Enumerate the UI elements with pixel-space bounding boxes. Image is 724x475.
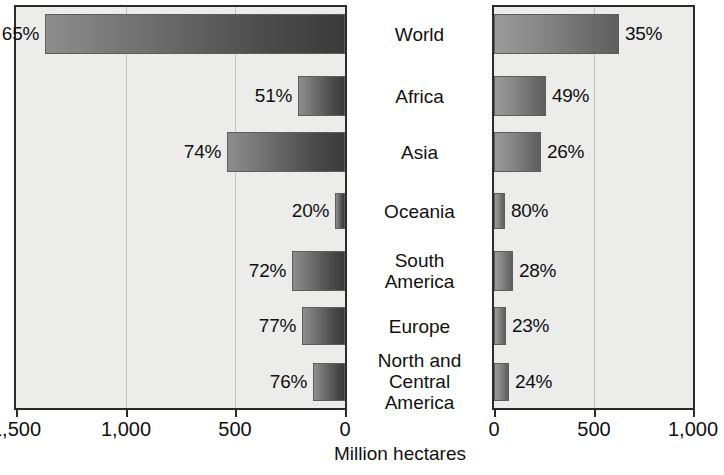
category-label-5: Europe <box>347 316 492 337</box>
left-chart-panel: 65%51%74%20%72%77%76% <box>14 5 347 410</box>
category-label-column: WorldAfricaAsiaOceaniaSouth AmericaEurop… <box>347 5 492 410</box>
value-label-right-0: 35% <box>625 24 662 43</box>
bar-left-4[interactable] <box>292 251 345 291</box>
bar-left-6[interactable] <box>313 363 345 401</box>
tick-label-left-1: 1,000 <box>101 419 151 439</box>
left-plot-area: 65%51%74%20%72%77%76% <box>16 7 345 408</box>
tick-mark <box>693 410 695 417</box>
tick-label-right-1: 500 <box>577 419 610 439</box>
gridline <box>594 7 595 408</box>
tick-mark <box>345 410 347 417</box>
value-label-left-6: 76% <box>270 372 307 391</box>
bar-right-1[interactable] <box>494 76 546 116</box>
category-label-4: South America <box>347 250 492 292</box>
tick-label-right-0: 0 <box>488 419 499 439</box>
value-label-left-3: 20% <box>292 201 329 220</box>
category-label-1: Africa <box>347 86 492 107</box>
category-label-6: North and Central America <box>347 350 492 413</box>
bar-left-5[interactable] <box>302 307 345 345</box>
gridline <box>126 7 127 408</box>
bar-left-3[interactable] <box>335 193 345 229</box>
category-label-0: World <box>347 24 492 45</box>
axis-title-text: Million hectares <box>334 443 466 464</box>
tick-mark <box>594 410 596 417</box>
value-label-left-2: 74% <box>184 142 221 161</box>
bar-right-4[interactable] <box>494 251 513 291</box>
category-label-3: Oceania <box>347 201 492 222</box>
tick-label-left-2: 500 <box>218 419 251 439</box>
bar-right-5[interactable] <box>494 307 506 345</box>
value-label-right-6: 24% <box>515 372 552 391</box>
bar-left-2[interactable] <box>227 132 345 172</box>
right-chart-panel: 35%49%26%80%28%23%24% <box>492 5 695 410</box>
tick-mark <box>16 410 18 417</box>
right-plot-area: 35%49%26%80%28%23%24% <box>494 7 693 408</box>
tick-label-left-3: 0 <box>339 419 350 439</box>
bar-right-0[interactable] <box>494 14 619 54</box>
value-label-right-3: 80% <box>511 201 548 220</box>
value-label-right-5: 23% <box>512 316 549 335</box>
value-label-left-1: 51% <box>255 86 292 105</box>
left-x-axis: 1,5001,0005000 <box>14 410 347 440</box>
value-label-right-4: 28% <box>519 261 556 280</box>
category-label-2: Asia <box>347 142 492 163</box>
value-label-right-2: 26% <box>547 142 584 161</box>
value-label-right-1: 49% <box>552 86 589 105</box>
bar-right-3[interactable] <box>494 193 505 229</box>
value-label-left-4: 72% <box>249 261 286 280</box>
value-label-left-5: 77% <box>259 316 296 335</box>
tick-label-left-0: 1,500 <box>0 419 41 439</box>
value-label-left-0: 65% <box>2 24 39 43</box>
tick-mark <box>235 410 237 417</box>
bar-right-2[interactable] <box>494 132 541 172</box>
tick-mark <box>126 410 128 417</box>
axis-title: Million hectares <box>0 443 724 465</box>
bar-left-0[interactable] <box>45 14 345 54</box>
bar-right-6[interactable] <box>494 363 509 401</box>
gridline <box>235 7 236 408</box>
chart-root: 65%51%74%20%72%77%76% 35%49%26%80%28%23%… <box>0 0 724 475</box>
right-x-axis: 05001,000 <box>492 410 695 440</box>
bar-left-1[interactable] <box>298 76 345 116</box>
tick-label-right-2: 1,000 <box>668 419 718 439</box>
tick-mark <box>494 410 496 417</box>
